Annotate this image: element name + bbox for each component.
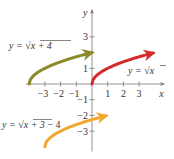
label-sqrt-x-plus-3-minus-4: y = √x + 3 − 4	[1, 119, 61, 130]
x-tick-label: −3	[38, 88, 49, 99]
x-tick-label: 1	[105, 88, 110, 99]
y-tick-label: 1	[83, 63, 88, 74]
y-axis-label: y	[82, 7, 88, 18]
x-axis-label: x	[158, 88, 164, 99]
svg-text:y = √x + 4: y = √x + 4	[8, 40, 52, 51]
svg-text:y = √x: y = √x	[127, 65, 155, 76]
x-tick-label: 2	[121, 88, 126, 99]
graph-canvas: x y −3−2−1123 31−1−2−3 y = √x + 4 y = √x…	[0, 0, 174, 159]
y-tick-label: −3	[77, 126, 88, 137]
label-sqrt-x-plus-4: y = √x + 4	[8, 40, 71, 51]
label-prefix: y =	[127, 65, 144, 76]
label-suffix: − 4	[45, 119, 61, 130]
label-sqrt-x: y = √x	[127, 65, 166, 76]
label-prefix: y =	[8, 40, 25, 51]
x-tick-label: −2	[53, 88, 64, 99]
y-tick-label: −2	[77, 110, 88, 121]
y-tick-label: −1	[77, 94, 88, 105]
label-radicand: x + 4	[30, 40, 52, 51]
label-radicand: x	[149, 65, 155, 76]
label-prefix: y =	[1, 119, 18, 130]
svg-text:y = √x + 3 − 4: y = √x + 3 − 4	[1, 119, 61, 130]
y-tick-label: 3	[83, 31, 88, 42]
x-tick-label: 3	[137, 88, 142, 99]
label-radicand: x + 3	[23, 119, 45, 130]
